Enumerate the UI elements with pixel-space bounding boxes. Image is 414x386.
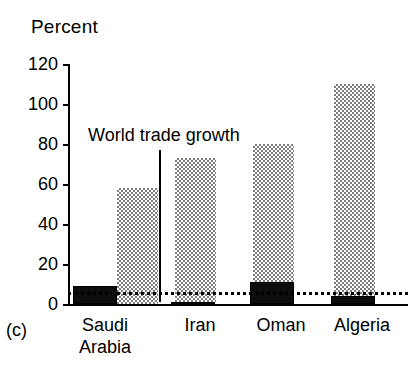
y-tick-mark: [63, 144, 69, 146]
chart-figure: Percent (c) World trade growth 120100806…: [0, 0, 414, 386]
category-label: Algeria: [307, 314, 414, 336]
annotation-leader-line: [159, 150, 161, 302]
bar-shaded: [117, 188, 158, 304]
y-tick-label: 120: [10, 55, 58, 73]
y-tick-label: 40: [10, 215, 58, 233]
y-tick-mark: [63, 64, 69, 66]
y-tick-label: 60: [10, 175, 58, 193]
y-tick-mark: [63, 184, 69, 186]
y-tick-label: 20: [10, 255, 58, 273]
y-tick-mark: [63, 264, 69, 266]
y-tick-label: 80: [10, 135, 58, 153]
panel-label: (c): [6, 320, 27, 341]
x-axis-line: [68, 304, 408, 306]
bar-shaded: [175, 158, 216, 304]
bar-dark: [73, 286, 117, 304]
bar-shaded: [253, 144, 294, 304]
bar-dark: [171, 302, 215, 304]
y-tick-mark: [63, 104, 69, 106]
y-tick-label: 0: [10, 295, 58, 313]
category-label: Saudi Arabia: [50, 314, 160, 358]
plot-area: 120100806040200: [68, 64, 408, 306]
reference-line: [68, 292, 408, 295]
bar-shaded: [334, 84, 375, 304]
axis-title: Percent: [31, 16, 98, 38]
y-tick-label: 100: [10, 95, 58, 113]
bar-dark: [331, 296, 375, 304]
y-tick-mark: [63, 224, 69, 226]
y-tick-mark: [63, 304, 69, 306]
